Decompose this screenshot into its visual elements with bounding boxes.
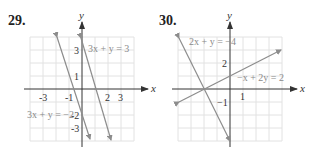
coordinate-plane: x y -3 -1 2 3 3 1 -2 -3 3x + y = 3 3x + … (0, 0, 157, 154)
y-axis-label: y (78, 9, 84, 21)
tick-y-1: 1 (74, 71, 79, 82)
equation-label-b: 3x + y = −2 (27, 109, 74, 120)
graph-panel-29: 29. x y -3 -1 2 3 3 (0, 0, 157, 154)
x-axis-label: x (150, 82, 156, 94)
equation-label-b: −x + 2y = 2 (237, 72, 284, 83)
tick-x-3: 3 (118, 92, 123, 103)
tick-y--3: -3 (71, 123, 79, 134)
equation-label-a: 2x + y = −4 (189, 36, 236, 47)
coordinate-plane: x y 1 2 −1 2x + y = −4 −x + 2y = 2 (157, 0, 314, 154)
tick-x-1: 1 (240, 91, 245, 102)
tick-x--1: -1 (65, 92, 73, 103)
y-axis-label: y (226, 9, 232, 21)
tick-x--3: -3 (39, 92, 47, 103)
tick-y-2: 2 (222, 58, 227, 69)
tick-y-3: 3 (74, 45, 79, 56)
tick-y--1: −1 (217, 97, 228, 108)
tick-x-2: 2 (105, 92, 110, 103)
x-axis-label: x (299, 82, 305, 94)
graph-panel-30: 30. x y 1 2 −1 (157, 0, 314, 154)
equation-label-a: 3x + y = 3 (88, 43, 129, 54)
